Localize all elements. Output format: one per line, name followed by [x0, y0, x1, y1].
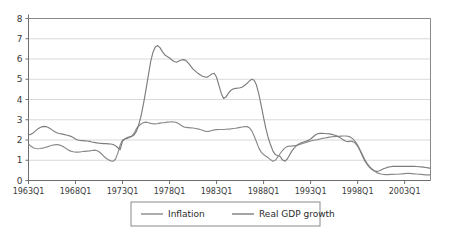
line-chart: 012345678 1963Q11968Q11973Q11978Q11983Q1… [0, 0, 449, 240]
y-tick-label-8: 8 [17, 14, 23, 24]
x-axis-tick-marks [29, 181, 405, 185]
y-tick-label-3: 3 [17, 115, 23, 125]
x-tick-label-1973Q1: 1973Q1 [107, 187, 139, 196]
data-series [29, 46, 431, 175]
legend-label-real-gdp-growth[interactable]: Real GDP growth [259, 209, 335, 219]
y-tick-label-0: 0 [17, 176, 23, 186]
chart-container: 012345678 1963Q11968Q11973Q11978Q11983Q1… [0, 0, 449, 240]
y-tick-label-5: 5 [17, 74, 23, 84]
y-tick-label-7: 7 [17, 34, 23, 44]
gridlines [29, 19, 431, 181]
x-tick-label-1963Q1: 1963Q1 [13, 187, 45, 196]
y-tick-label-2: 2 [17, 135, 23, 145]
x-tick-label-1993Q1: 1993Q1 [295, 187, 327, 196]
x-tick-label-1983Q1: 1983Q1 [201, 187, 233, 196]
x-tick-label-2003Q1: 2003Q1 [389, 187, 421, 196]
x-tick-label-1978Q1: 1978Q1 [154, 187, 186, 196]
y-tick-label-4: 4 [17, 95, 23, 105]
x-tick-label-1998Q1: 1998Q1 [342, 187, 374, 196]
chart-legend[interactable]: InflationReal GDP growth [131, 202, 335, 226]
axis-lines [29, 15, 431, 182]
x-axis-tick-labels: 1963Q11968Q11973Q11978Q11983Q11988Q11993… [13, 187, 421, 196]
series-line-inflation [29, 122, 431, 175]
legend-label-inflation[interactable]: Inflation [168, 209, 205, 219]
y-tick-label-6: 6 [17, 54, 23, 64]
y-axis-tick-labels: 012345678 [17, 14, 29, 186]
series-line-real-gdp-growth [29, 46, 431, 172]
x-tick-label-1988Q1: 1988Q1 [248, 187, 280, 196]
y-tick-label-1: 1 [17, 155, 23, 165]
x-tick-label-1968Q1: 1968Q1 [60, 187, 92, 196]
